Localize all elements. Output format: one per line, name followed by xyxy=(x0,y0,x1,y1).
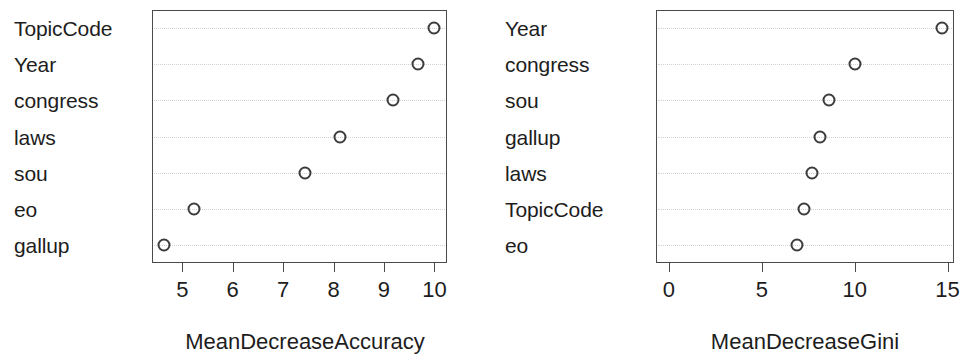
variable-label: sou xyxy=(483,90,648,111)
variable-label: congress xyxy=(483,54,648,75)
variable-label: congress xyxy=(0,90,144,111)
data-point xyxy=(805,166,818,179)
x-axis-tick xyxy=(434,263,435,272)
gridline xyxy=(154,137,445,138)
panel-mean-decrease-accuracy: TopicCodeYearcongresslawssoueogallup 567… xyxy=(0,0,483,361)
variable-label: TopicCode xyxy=(0,18,144,39)
x-axis-tick-label: 5 xyxy=(176,279,188,301)
x-axis-tick xyxy=(948,263,949,272)
x-axis-tick xyxy=(182,263,183,272)
data-point xyxy=(814,130,827,143)
variable-label: laws xyxy=(483,162,648,183)
x-axis-tick-label: 10 xyxy=(842,279,866,301)
variable-label: sou xyxy=(0,162,144,183)
variable-label: TopicCode xyxy=(483,198,648,219)
x-axis-tick xyxy=(283,263,284,272)
gridline xyxy=(154,28,445,29)
data-point xyxy=(428,22,441,35)
variable-label: laws xyxy=(0,126,144,147)
gridline xyxy=(154,64,445,65)
x-axis-tick-label: 5 xyxy=(756,279,768,301)
gridline xyxy=(658,137,952,138)
data-point xyxy=(158,238,171,251)
gridline xyxy=(658,100,952,101)
x-axis-tick xyxy=(334,263,335,272)
data-point xyxy=(791,238,804,251)
x-axis-tick xyxy=(233,263,234,272)
variable-label: Year xyxy=(483,18,648,39)
variable-importance-figure: TopicCodeYearcongresslawssoueogallup 567… xyxy=(0,0,966,361)
gridline xyxy=(658,245,952,246)
x-axis-tick xyxy=(669,263,670,272)
data-point xyxy=(333,130,346,143)
x-axis-tick xyxy=(384,263,385,272)
x-axis-tick-label: 15 xyxy=(935,279,959,301)
x-axis-tick-label: 8 xyxy=(327,279,339,301)
data-point xyxy=(797,202,810,215)
variable-label: eo xyxy=(0,198,144,219)
left-axis-title: MeanDecreaseAccuracy xyxy=(185,330,425,354)
gridline xyxy=(154,245,445,246)
variable-label: Year xyxy=(0,54,144,75)
x-axis-tick-label: 7 xyxy=(277,279,289,301)
x-axis-tick xyxy=(762,263,763,272)
data-point xyxy=(387,94,400,107)
x-axis-tick-label: 10 xyxy=(422,279,446,301)
data-point xyxy=(411,58,424,71)
gridline xyxy=(658,64,952,65)
data-point xyxy=(935,22,948,35)
data-point xyxy=(298,166,311,179)
x-axis-tick-label: 6 xyxy=(227,279,239,301)
x-axis-tick-label: 9 xyxy=(378,279,390,301)
variable-label: eo xyxy=(483,234,648,255)
right-axis-title: MeanDecreaseGini xyxy=(711,330,899,354)
gridline xyxy=(658,28,952,29)
x-axis-tick xyxy=(855,263,856,272)
data-point xyxy=(823,94,836,107)
variable-label: gallup xyxy=(483,126,648,147)
x-axis-tick-label: 0 xyxy=(663,279,675,301)
data-point xyxy=(187,202,200,215)
panel-mean-decrease-gini: YearcongresssougalluplawsTopicCodeeo 051… xyxy=(483,0,966,361)
gridline xyxy=(154,100,445,101)
data-point xyxy=(849,58,862,71)
variable-label: gallup xyxy=(0,234,144,255)
